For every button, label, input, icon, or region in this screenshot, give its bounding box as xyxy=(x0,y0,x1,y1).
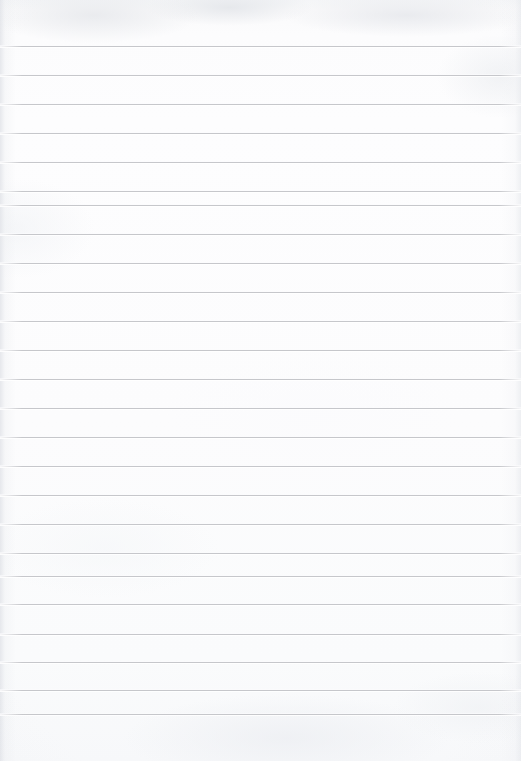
rule-line xyxy=(0,437,521,438)
rule-line xyxy=(0,662,521,663)
rule-line xyxy=(0,162,521,163)
rule-line xyxy=(0,263,521,264)
rule-line xyxy=(0,191,521,192)
rule-line xyxy=(0,46,521,47)
rule-line xyxy=(0,690,521,691)
ruled-lines-layer xyxy=(0,0,521,761)
rule-line xyxy=(0,634,521,635)
rule-line xyxy=(0,234,521,235)
rule-line xyxy=(0,75,521,76)
rule-line xyxy=(0,292,521,293)
rule-line xyxy=(0,205,521,206)
document-page xyxy=(0,0,521,761)
rule-line xyxy=(0,104,521,105)
rule-line xyxy=(0,379,521,380)
rule-line xyxy=(0,466,521,467)
rule-line xyxy=(0,350,521,351)
rule-line xyxy=(0,553,521,554)
rule-line xyxy=(0,133,521,134)
rule-line xyxy=(0,321,521,322)
rule-line xyxy=(0,714,521,715)
rule-line xyxy=(0,524,521,525)
rule-line xyxy=(0,576,521,577)
rule-line xyxy=(0,408,521,409)
rule-line xyxy=(0,495,521,496)
rule-line xyxy=(0,604,521,605)
